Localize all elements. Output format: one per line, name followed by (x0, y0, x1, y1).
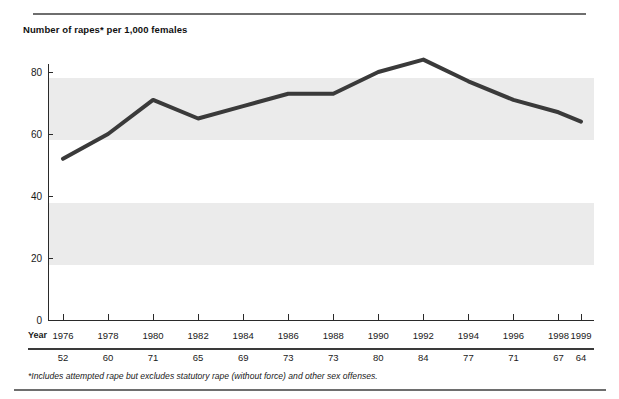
value-cell-1980: 71 (148, 352, 159, 363)
value-cell-1976: 52 (58, 352, 69, 363)
x-tick-1998 (558, 314, 559, 320)
year-cell-1998: 1998 (548, 330, 569, 341)
x-tick-1996 (513, 314, 514, 320)
y-tick-label-60: 60 (2, 129, 42, 140)
x-tick-1999 (581, 314, 582, 320)
year-labels-row: 1976197819801982198419861988199019921994… (0, 330, 619, 344)
y-tick-label-40: 40 (2, 191, 42, 202)
y-tick-label-20: 20 (2, 253, 42, 264)
year-cell-1990: 1990 (368, 330, 389, 341)
year-cell-1982: 1982 (188, 330, 209, 341)
chart-title: Number of rapes* per 1,000 females (23, 24, 187, 35)
y-tick-60 (48, 134, 53, 135)
x-axis-line (48, 320, 594, 321)
value-cell-1994: 77 (463, 352, 474, 363)
year-cell-1976: 1976 (52, 330, 73, 341)
year-cell-1986: 1986 (278, 330, 299, 341)
year-cell-1980: 1980 (143, 330, 164, 341)
y-tick-40 (48, 196, 53, 197)
y-tick-0 (48, 320, 53, 321)
value-cell-1978: 60 (103, 352, 114, 363)
x-tick-1988 (333, 314, 334, 320)
y-tick-label-0: 0 (2, 315, 42, 326)
value-cell-1999: 64 (576, 352, 587, 363)
value-cell-1984: 69 (238, 352, 249, 363)
x-tick-1994 (468, 314, 469, 320)
year-cell-1978: 1978 (97, 330, 118, 341)
year-cell-1999: 1999 (570, 330, 591, 341)
value-cell-1988: 73 (328, 352, 339, 363)
x-tick-1978 (108, 314, 109, 320)
x-tick-1976 (63, 314, 64, 320)
year-cell-1994: 1994 (458, 330, 479, 341)
value-cell-1996: 71 (508, 352, 519, 363)
year-cell-1992: 1992 (413, 330, 434, 341)
top-divider-rule (33, 13, 586, 15)
clipped-header-text (33, 0, 586, 11)
x-tick-1986 (288, 314, 289, 320)
value-cell-1990: 80 (373, 352, 384, 363)
y-tick-label-80: 80 (2, 67, 42, 78)
value-cell-1992: 84 (418, 352, 429, 363)
value-cell-1998: 67 (553, 352, 564, 363)
value-labels-row: 52607165697373808477716764 (0, 352, 619, 366)
year-cell-1996: 1996 (503, 330, 524, 341)
x-tick-1992 (423, 314, 424, 320)
plot-area (48, 60, 594, 320)
bottom-divider-rule (14, 389, 606, 391)
value-cell-1986: 73 (283, 352, 294, 363)
value-cell-1982: 65 (193, 352, 204, 363)
y-tick-20 (48, 258, 53, 259)
x-tick-1984 (243, 314, 244, 320)
x-tick-1990 (378, 314, 379, 320)
year-cell-1988: 1988 (323, 330, 344, 341)
chart-footnote: *Includes attempted rape but excludes st… (28, 371, 378, 381)
x-tick-1980 (153, 314, 154, 320)
table-divider-rule (28, 348, 594, 350)
y-tick-80 (48, 72, 53, 73)
shaded-band-lower (48, 203, 594, 265)
shaded-band-upper (48, 78, 594, 140)
year-cell-1984: 1984 (233, 330, 254, 341)
y-axis-line (48, 64, 49, 321)
x-tick-1982 (198, 314, 199, 320)
